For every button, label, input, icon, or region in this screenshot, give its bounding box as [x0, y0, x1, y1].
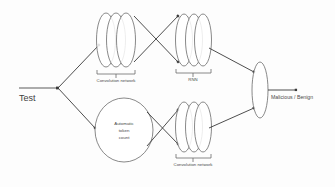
top-convolution-brace	[97, 70, 135, 78]
rnn-brace	[176, 69, 211, 77]
bottom-convolution-brace	[176, 154, 211, 162]
edge-input-to-top-conv	[58, 45, 99, 88]
edge-rnn-to-output	[209, 48, 254, 72]
bottom-convolution-stack	[176, 102, 212, 152]
rnn-label: RNN	[188, 77, 197, 82]
token-count-label-line1: Automatic	[114, 121, 134, 126]
output-node	[252, 62, 268, 118]
edges-top-conv-to-rnn	[134, 16, 178, 62]
edge-input-to-token-count	[58, 88, 95, 128]
rnn-stack	[176, 14, 212, 66]
token-count-label-line2: token	[119, 128, 130, 133]
top-convolution-label: Convolution network	[97, 78, 137, 83]
bottom-convolution-label: Convolution network	[174, 162, 214, 167]
top-convolution-stack	[97, 13, 136, 67]
input-line	[19, 87, 59, 90]
input-label: Test	[19, 93, 36, 103]
diagram-canvas: Test Convolution network RNN Automatic t…	[0, 0, 335, 187]
edge-bottom-conv-to-output	[209, 108, 254, 128]
output-label: Malicious / Benign	[271, 94, 313, 100]
token-count-label-line3: count	[119, 135, 131, 140]
